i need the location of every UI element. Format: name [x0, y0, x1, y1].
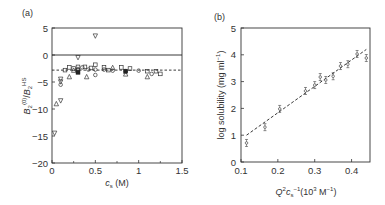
- y-tick-label: 4: [231, 49, 236, 60]
- data-point: [319, 76, 322, 79]
- data-point: [324, 79, 327, 82]
- data-point: [339, 65, 342, 68]
- y-tick-label: 3: [231, 76, 236, 87]
- up-triangle-marker: [84, 74, 88, 78]
- y-tick-label: −20: [32, 158, 48, 169]
- circle-marker: [150, 72, 154, 76]
- dashed-fit-line: [247, 49, 367, 135]
- square-marker: [94, 63, 98, 67]
- data-point: [347, 63, 350, 66]
- y-tick-label: 0: [43, 50, 48, 61]
- circle-marker: [137, 69, 141, 73]
- panel-b-label: (b): [214, 12, 225, 22]
- figure: (a) 00.511.550−5−10−15−20 cs (M) B2(0)/B…: [0, 0, 385, 205]
- y-tick-label: 5: [43, 23, 48, 34]
- panel-b-y-axis-label: log solubility (mg ml−1): [215, 51, 226, 140]
- panel-a-ticks: 00.511.550−5−10−15−20: [32, 23, 189, 177]
- x-tick-label: 0.4: [345, 165, 358, 176]
- panel-a-x-axis-label: cs (M): [105, 178, 129, 189]
- panel-b-data-points: [245, 50, 368, 146]
- x-tick-label: 0.2: [271, 165, 284, 176]
- x-tick-label: 1.5: [175, 165, 188, 176]
- panel-b-ticks: 0.10.20.30.4012345: [231, 23, 358, 177]
- panel-b-fit-line: [247, 49, 367, 135]
- y-tick-label: −10: [32, 104, 48, 115]
- up-triangle-marker: [67, 74, 71, 78]
- panel-a: (a) 00.511.550−5−10−15−20 cs (M) B2(0)/B…: [21, 8, 189, 189]
- down-triangle-marker: [52, 131, 56, 135]
- panel-a-y-axis-label: B2(0)/B2HS: [21, 78, 33, 115]
- circle-marker: [94, 73, 98, 77]
- data-point: [264, 126, 267, 129]
- panel-b-plot-frame: [241, 28, 370, 162]
- x-tick-label: 1: [136, 165, 141, 176]
- y-tick-label: −15: [32, 131, 48, 142]
- filled-square-marker: [124, 69, 128, 73]
- data-point: [313, 84, 316, 87]
- panel-a-label: (a): [22, 8, 33, 18]
- y-tick-label: −5: [37, 77, 48, 88]
- panel-a-data-points: [52, 34, 162, 136]
- x-tick-label: 0.3: [308, 165, 321, 176]
- data-point: [356, 53, 359, 56]
- down-triangle-marker: [93, 34, 97, 38]
- square-marker: [120, 66, 124, 70]
- x-tick-label: 0.5: [89, 165, 102, 176]
- data-point: [365, 57, 368, 60]
- y-tick-label: 1: [231, 130, 236, 141]
- square-marker: [68, 66, 72, 70]
- filled-square-marker: [76, 70, 80, 74]
- data-point: [278, 108, 281, 111]
- square-marker: [159, 72, 163, 76]
- panel-a-plot-frame: [52, 28, 182, 163]
- data-point: [245, 142, 248, 145]
- circle-marker: [94, 68, 98, 72]
- panel-a-reference-lines: [52, 55, 182, 70]
- y-tick-label: 5: [231, 23, 236, 34]
- y-tick-label: 2: [231, 103, 236, 114]
- up-triangle-marker: [145, 74, 149, 78]
- x-tick-label: 0.1: [234, 165, 247, 176]
- x-tick-label: 0: [49, 165, 54, 176]
- circle-marker: [102, 68, 106, 72]
- data-point: [332, 75, 335, 78]
- up-triangle-marker: [54, 101, 58, 105]
- data-point: [304, 90, 307, 93]
- panel-b: (b) 0.10.20.30.4012345 Q2cs−1(103 M−1) l…: [214, 12, 370, 198]
- down-triangle-marker: [58, 99, 62, 103]
- down-triangle-marker: [76, 56, 80, 60]
- y-tick-label: 0: [231, 157, 236, 168]
- panel-b-x-axis-label: Q2cs−1(103 M−1): [276, 186, 337, 198]
